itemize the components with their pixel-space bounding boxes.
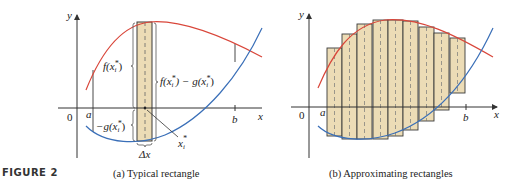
panel-b-y-label: y bbox=[298, 8, 304, 20]
panel-a-a-label: a bbox=[86, 108, 92, 120]
delta-x-label: Δx bbox=[138, 148, 150, 160]
panel-a-origin-label: 0 bbox=[67, 111, 73, 123]
xi-point bbox=[144, 107, 147, 110]
panel-b-plot bbox=[327, 20, 465, 139]
panel-a-b-label: b bbox=[232, 113, 238, 125]
f-minus-g-label: f(xi*) − g(xi*) bbox=[160, 74, 214, 89]
panel-a-x-label: x bbox=[257, 110, 263, 122]
typical-rectangle bbox=[137, 22, 152, 141]
dx-brace bbox=[137, 143, 152, 147]
panel-b-x-label: x bbox=[493, 108, 499, 120]
figure-label: FIGURE 2 bbox=[2, 167, 58, 178]
neg-g-of-xi-label: −g(xi*) bbox=[96, 119, 125, 134]
panel-b-caption: (b) Approximating rectangles bbox=[329, 168, 453, 179]
neg-g-brace bbox=[131, 110, 135, 141]
panel-b-a-label: a bbox=[320, 106, 326, 118]
panel-b-origin-label: 0 bbox=[299, 109, 305, 121]
panel-a-y-label: y bbox=[66, 9, 72, 21]
figure-svg: y x 0 a b f(xi*) f(xi*) − g(xi*) −g(xi*)… bbox=[0, 0, 521, 193]
panel-a-caption: (a) Typical rectangle bbox=[113, 168, 200, 179]
diff-brace bbox=[154, 23, 158, 141]
f-of-xi-label: f(xi*) bbox=[103, 59, 123, 74]
f-brace bbox=[131, 23, 135, 108]
panel-b-b-label: b bbox=[463, 111, 469, 123]
xi-star-label: xi* bbox=[177, 134, 187, 151]
